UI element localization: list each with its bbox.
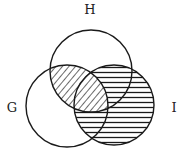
venn-diagram: H G I (0, 0, 185, 158)
label-g: G (7, 100, 17, 115)
label-i: I (171, 100, 176, 115)
label-h: H (84, 2, 95, 17)
